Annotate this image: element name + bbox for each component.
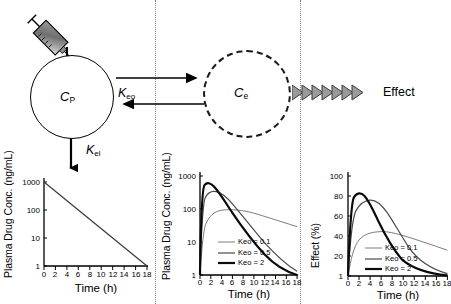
chart-middle-legend: Keo = 0.1 Keo = 0.5 Keo = 2	[218, 238, 270, 270]
legend-line-swatch-thick	[365, 265, 382, 273]
chart-right-effect-keo: Effect (%) 100 80 60 40 20 1	[303, 160, 451, 304]
chart-right-ytick-60: 60	[321, 212, 343, 221]
effect-site-label-sub: e	[244, 91, 249, 101]
chart-right-legend-item-2: Keo = 2	[365, 265, 417, 273]
chart-middle-y-axis-label: Plasma Drug Conc. (ng/mL)	[160, 164, 172, 280]
chart-left-ytick-10: 10	[18, 234, 40, 243]
chart-right-xtick-0: 0	[346, 279, 350, 288]
chart-right-xtick-8: 8	[390, 279, 394, 288]
chart-left-xtick-0: 0	[42, 270, 46, 279]
chart-left-xtick-18: 18	[143, 270, 152, 279]
chart-middle-legend-label-0: Keo = 0.1	[238, 238, 270, 246]
chart-right-xtick-4: 4	[368, 279, 372, 288]
chart-right-legend: Keo = 0.1 Keo = 0.5 Keo = 2	[365, 244, 417, 276]
panel-divider-left	[155, 0, 156, 304]
chart-right-ytick-40: 40	[321, 232, 343, 241]
kel-rate-label: Kel	[86, 143, 101, 158]
chart-right-legend-item-0: Keo = 0.1	[365, 244, 417, 252]
effect-site-compartment-label: Ce	[234, 85, 249, 101]
chart-middle-xtick-16: 16	[282, 278, 291, 287]
chart-right-ytick-80: 80	[321, 192, 343, 201]
chart-middle-plasma-keo: Plasma Drug Conc. (ng/mL) 1000 100 10 1	[158, 160, 300, 304]
chart-right-ytick-100: 100	[321, 172, 343, 181]
chart-middle-legend-label-1: Keo = 0.5	[238, 249, 270, 257]
chart-left-xtick-2: 2	[53, 270, 57, 279]
chart-right-xtick-16: 16	[432, 279, 441, 288]
chart-middle-x-axis-label: Time (h)	[198, 288, 300, 300]
chart-left-xtick-14: 14	[120, 270, 129, 279]
chart-left-xtick-8: 8	[88, 270, 92, 279]
chart-right-xtick-12: 12	[410, 279, 419, 288]
chart-left-ytick-1000: 1000	[18, 178, 40, 187]
chart-right-legend-label-2: Keo = 2	[385, 265, 411, 273]
effect-output-label: Effect	[383, 85, 415, 99]
keo-label-sub: eo	[126, 92, 135, 101]
chart-right-x-axis-label: Time (h)	[346, 289, 450, 301]
chart-left-xtick-12: 12	[109, 270, 118, 279]
plasma-label-main: C	[60, 89, 70, 104]
chart-middle-xtick-12: 12	[261, 278, 270, 287]
chart-right-xtick-10: 10	[399, 279, 408, 288]
chart-left-xtick-10: 10	[97, 270, 106, 279]
chart-left-xtick-6: 6	[76, 270, 80, 279]
chart-right-legend-label-0: Keo = 0.1	[385, 244, 417, 252]
chart-left-ytick-1: 1	[18, 262, 40, 271]
chart-middle-legend-item-0: Keo = 0.1	[218, 238, 270, 246]
chart-middle-ytick-1000: 1000	[172, 172, 196, 181]
legend-line-swatch-thin	[218, 238, 235, 246]
chart-middle-xtick-2: 2	[209, 278, 213, 287]
chart-middle-xtick-6: 6	[230, 278, 234, 287]
chart-middle-xtick-14: 14	[271, 278, 280, 287]
chart-left-xtick-16: 16	[132, 270, 141, 279]
chart-middle-legend-label-2: Keo = 2	[238, 259, 264, 267]
chart-right-ytick-20: 20	[321, 252, 343, 261]
chart-left-xtick-4: 4	[65, 270, 69, 279]
chart-middle-xtick-4: 4	[220, 278, 224, 287]
chart-left-y-axis-label: Plasma Drug Conc. (ng/mL)	[2, 170, 14, 278]
chevron-arrow-series-icon	[292, 83, 378, 103]
kel-label-sub: el	[94, 149, 100, 158]
legend-line-swatch-medium	[365, 255, 382, 263]
chart-left-plasma-decay: Plasma Drug Conc. (ng/mL) 1000 100 10 1	[0, 168, 155, 304]
chart-right-xtick-2: 2	[357, 279, 361, 288]
chart-right-xtick-18: 18	[443, 279, 451, 288]
chart-right-legend-item-1: Keo = 0.5	[365, 255, 417, 263]
chart-middle-xtick-10: 10	[250, 278, 259, 287]
effect-site-label-main: C	[234, 85, 244, 100]
figure-root: CP Keo Ce Effect	[0, 0, 451, 304]
chart-middle-legend-item-1: Keo = 0.5	[218, 249, 270, 257]
chart-right-legend-label-1: Keo = 0.5	[385, 255, 417, 263]
chart-middle-legend-item-2: Keo = 2	[218, 259, 270, 267]
chart-middle-xtick-8: 8	[241, 278, 245, 287]
chart-middle-ytick-10: 10	[172, 238, 196, 247]
chart-right-xtick-14: 14	[421, 279, 430, 288]
chart-left-plot-area	[42, 178, 150, 274]
chart-middle-xtick-18: 18	[293, 278, 302, 287]
chart-middle-xtick-0: 0	[198, 278, 202, 287]
chart-left-x-axis-label: Time (h)	[42, 282, 150, 294]
plasma-compartment-label: CP	[60, 89, 75, 105]
chart-right-y-axis-label: Effect (%)	[309, 184, 321, 268]
plasma-label-sub: P	[70, 95, 76, 105]
chart-right-ytick-1: 1	[321, 272, 343, 281]
chart-right-xtick-6: 6	[379, 279, 383, 288]
chart-middle-ytick-1: 1	[172, 271, 196, 280]
chart-left-ytick-100: 100	[18, 206, 40, 215]
chart-middle-ytick-100: 100	[172, 205, 196, 214]
panel-divider-right	[300, 0, 301, 304]
legend-line-swatch-thin	[365, 244, 382, 252]
keo-rate-label: Keo	[118, 86, 135, 101]
legend-line-swatch-medium	[218, 249, 235, 257]
legend-line-swatch-thick	[218, 259, 235, 267]
